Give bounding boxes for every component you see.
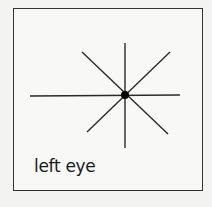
diagonal-line-up bbox=[87, 52, 170, 132]
center-dot bbox=[121, 91, 129, 99]
horizontal-line bbox=[30, 95, 180, 96]
eye-label: left eye bbox=[34, 156, 96, 176]
astigmatism-star-diagram bbox=[0, 0, 212, 207]
